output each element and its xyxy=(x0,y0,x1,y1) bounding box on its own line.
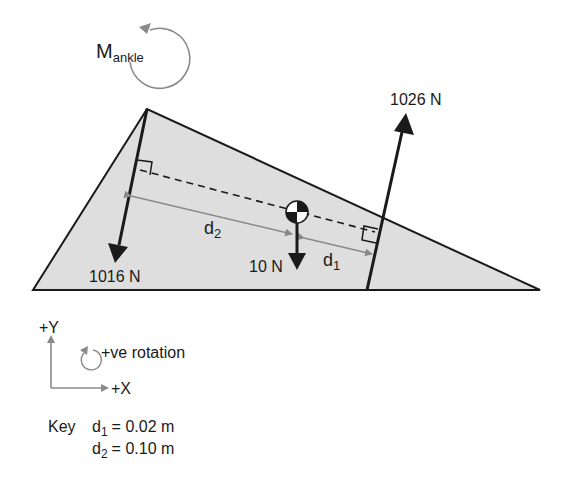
rotation-label: +ve rotation xyxy=(101,344,185,361)
moment-label: Mankle xyxy=(96,40,144,65)
y-axis-label: +Y xyxy=(39,319,59,336)
force-label-1026n: 1026 N xyxy=(390,91,442,108)
foot-segment-shape xyxy=(33,109,540,290)
coordinate-axes xyxy=(47,335,109,392)
free-body-diagram: Mankle 1026 N 1016 N 10 N d2 d1 +Y +X +v… xyxy=(0,0,566,478)
force-label-1016n: 1016 N xyxy=(89,268,141,285)
key-entry-d1: d1= 0.02 m xyxy=(92,418,174,439)
key-entry-d2: d2= 0.10 m xyxy=(92,440,174,461)
center-of-mass-icon xyxy=(286,201,308,223)
x-axis-label: +X xyxy=(111,380,131,397)
force-label-10n: 10 N xyxy=(249,258,283,275)
key-title: Key xyxy=(48,418,76,435)
positive-rotation-icon xyxy=(80,346,101,370)
